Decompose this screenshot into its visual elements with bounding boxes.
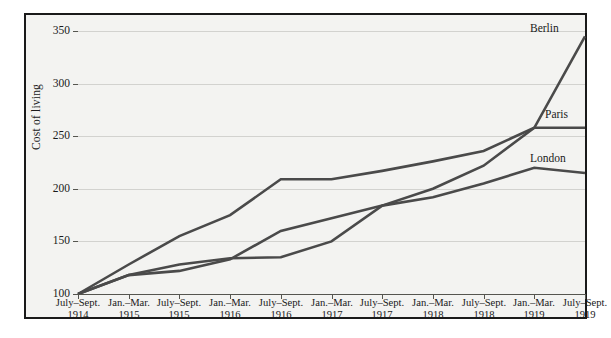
y-tick-label-150: 150 [26, 235, 70, 247]
x-tick-year: 1919 [542, 309, 611, 321]
cost-of-living-chart: Cost of living 100150200250300350 July–S… [0, 0, 611, 338]
y-tick-label-250: 250 [26, 130, 70, 142]
plot-area [78, 31, 585, 294]
y-tick-label-300: 300 [26, 78, 70, 90]
series-label-berlin: Berlin [530, 22, 559, 34]
y-tick-label-350: 350 [26, 25, 70, 37]
y-tick-label-200: 200 [26, 183, 70, 195]
series-lines [78, 31, 585, 294]
series-label-london: London [530, 152, 566, 164]
x-tick-season: July–Sept. [563, 297, 607, 308]
line-paris [78, 128, 585, 294]
line-berlin [78, 36, 585, 294]
series-label-paris: Paris [545, 108, 568, 120]
line-london [78, 168, 585, 294]
x-tick-label-10: July–Sept.1919 [542, 297, 611, 320]
